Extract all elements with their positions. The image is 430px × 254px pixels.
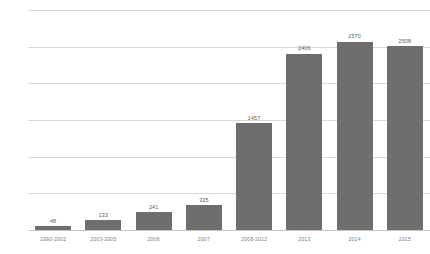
bar [337,42,373,230]
x-axis-category-label: 1990-2002 [28,236,78,242]
bar [136,212,172,230]
bar-slot: 241 [129,10,179,230]
bar [35,226,71,230]
x-axis-category-label: 2013 [279,236,329,242]
bar-value-label: 2508 [380,38,430,44]
bars-layer: 481332413351457240625702508 [28,10,430,230]
bar [186,205,222,230]
bar-chart: 050010001500200025003000 481332413351457… [0,0,430,254]
bar-value-label: 1457 [229,115,279,121]
bar [236,123,272,230]
bar-slot: 2508 [380,10,430,230]
bar [286,54,322,230]
bar-value-label: 2406 [279,45,329,51]
bar-slot: 48 [28,10,78,230]
bar [85,220,121,230]
gridline [28,230,430,231]
bar-value-label: 2570 [330,33,380,39]
bar-value-label: 133 [78,212,128,218]
bar-value-label: 335 [179,197,229,203]
bar-value-label: 241 [129,204,179,210]
x-axis-category-label: 2014 [330,236,380,242]
bar-slot: 335 [179,10,229,230]
bar [387,46,423,230]
bar-slot: 133 [78,10,128,230]
x-axis-category-label: 2003-2005 [78,236,128,242]
bar-slot: 2406 [279,10,329,230]
bar-value-label: 48 [28,218,78,224]
x-axis-category-label: 2007 [179,236,229,242]
bar-slot: 2570 [330,10,380,230]
x-axis-category-label: 2006 [129,236,179,242]
category-axis: 1990-20022003-2005200620072008-201220132… [28,233,430,251]
x-axis-category-label: 2015 [380,236,430,242]
x-axis-category-label: 2008-2012 [229,236,279,242]
bar-slot: 1457 [229,10,279,230]
